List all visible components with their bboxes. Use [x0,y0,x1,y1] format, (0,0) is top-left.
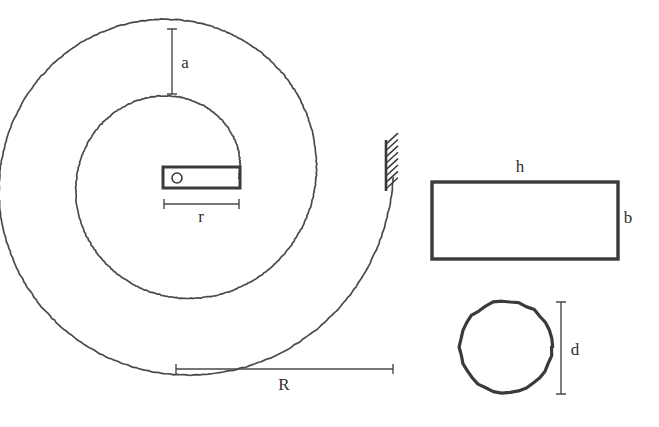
spiral-spring-diagram: a r R h b d [0,0,659,427]
dimension-r-label: r [198,207,204,226]
dimension-b-label: b [624,208,633,227]
dimension-R-label: R [278,375,290,394]
dimension-a-label: a [181,53,189,72]
figure-canvas: a r R h b d [0,0,659,427]
dimension-h-label: h [516,157,525,176]
dimension-d-label: d [571,340,580,359]
figure-background [0,0,659,427]
